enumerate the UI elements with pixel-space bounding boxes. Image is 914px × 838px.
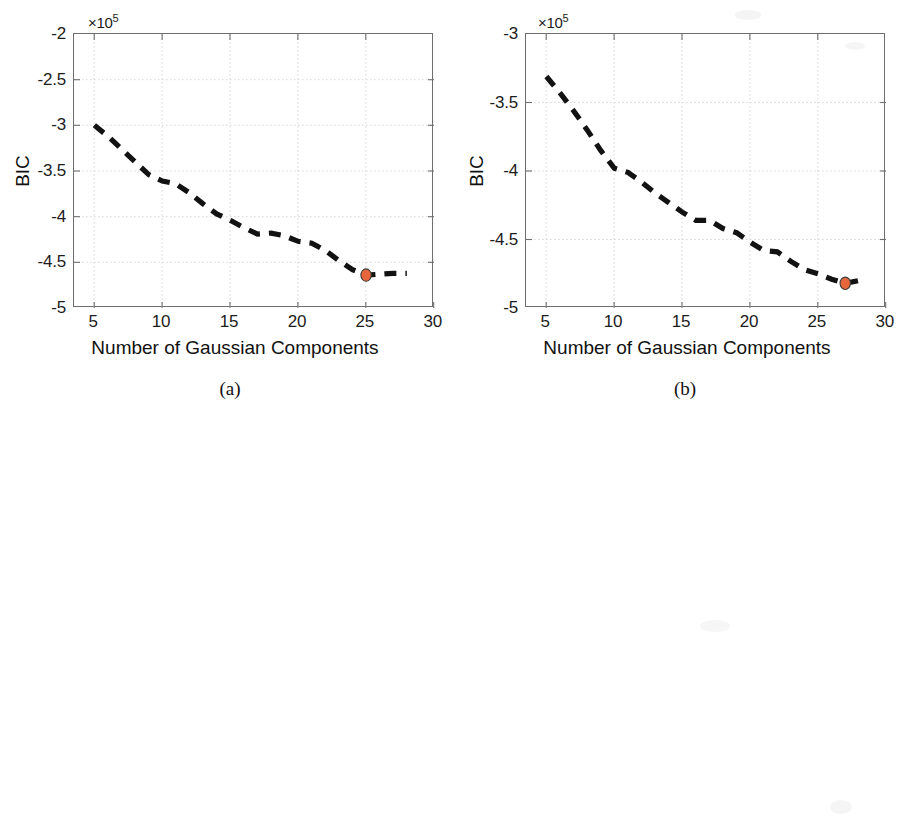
- panel-b-xtick-0: 5: [541, 313, 550, 330]
- panel-a-xtick-4: 25: [356, 313, 375, 330]
- panel-a-ytick-0: -2: [18, 25, 66, 42]
- panel-a-gridlines: [74, 34, 434, 308]
- panel-b-ytick-1: -3.5: [470, 93, 518, 110]
- scan-speckle: [700, 620, 730, 632]
- panel-b-xtick-1: 10: [604, 313, 623, 330]
- panel-b-ytick-2: -4: [470, 162, 518, 179]
- panel-b-caption: (b): [615, 378, 755, 400]
- panel-b-x-axis-label: Number of Gaussian Components: [492, 337, 882, 359]
- panel-a-caption: (a): [160, 378, 300, 400]
- panel-b-xtick-3: 20: [740, 313, 759, 330]
- panel-b-ytick-3: -4.5: [470, 230, 518, 247]
- panel-a-optimal-marker: [361, 269, 371, 281]
- bic-figure: ×105 BIC: [0, 0, 914, 838]
- panel-a-ytick-5: -4.5: [18, 253, 66, 270]
- panel-b-ytick-4: -5: [470, 299, 518, 316]
- panel-b-exponent-label: ×105: [538, 12, 568, 31]
- panel-b: ×105 BIC: [460, 0, 914, 400]
- panel-b-xtick-4: 25: [808, 313, 827, 330]
- panel-a-x-axis-label: Number of Gaussian Components: [40, 337, 430, 359]
- panel-a-ytick-6: -5: [18, 299, 66, 316]
- panel-b-ytick-0: -3: [470, 25, 518, 42]
- panel-a-ytick-3: -3.5: [18, 162, 66, 179]
- panel-a-exponent-label: ×105: [88, 12, 118, 31]
- panel-a-tickmarks: [74, 34, 434, 308]
- panel-b-gridlines: [526, 34, 886, 308]
- panel-b-plot-area: [525, 33, 885, 307]
- panel-b-bic-curve: [546, 76, 858, 283]
- panel-a-xtick-1: 10: [152, 313, 171, 330]
- scan-speckle: [830, 800, 852, 814]
- panel-b-tickmarks: [526, 34, 886, 308]
- panel-a-series: [74, 34, 434, 308]
- panel-b-series: [526, 34, 886, 308]
- panel-b-xtick-2: 15: [672, 313, 691, 330]
- panel-a-ytick-1: -2.5: [18, 70, 66, 87]
- panel-a-xtick-2: 15: [220, 313, 239, 330]
- panel-b-xtick-5: 30: [875, 313, 894, 330]
- panel-a-plot-area: [73, 33, 433, 307]
- panel-a-ytick-2: -3: [18, 116, 66, 133]
- panel-a-xtick-0: 5: [89, 313, 98, 330]
- panel-a-xtick-5: 30: [423, 313, 442, 330]
- panel-a: ×105 BIC: [0, 0, 460, 400]
- panel-c: ×105 BIC: [230, 430, 700, 838]
- panel-a-ytick-4: -4: [18, 207, 66, 224]
- panel-a-bic-curve: [94, 125, 406, 275]
- panel-b-optimal-marker: [840, 277, 850, 289]
- panel-a-xtick-3: 20: [288, 313, 307, 330]
